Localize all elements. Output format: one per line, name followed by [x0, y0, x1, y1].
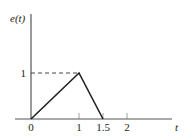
x-tick-label: 0	[28, 121, 34, 133]
x-tick-label: 1	[76, 121, 82, 133]
x-tick-label: 2	[124, 121, 130, 133]
series-line-e-t	[31, 73, 103, 119]
y-axis-label: e(t)	[10, 12, 26, 25]
x-tick-label: 1.5	[96, 121, 110, 133]
chart: 011.52 1 e(t) t	[0, 0, 192, 138]
x-axis-label: t	[175, 121, 179, 133]
y-tick-label: 1	[21, 67, 27, 79]
